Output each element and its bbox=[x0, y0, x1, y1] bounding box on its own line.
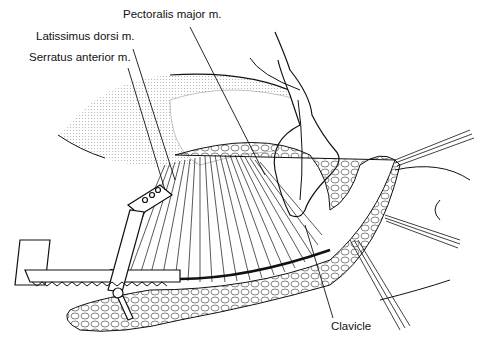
fat-border bbox=[67, 143, 400, 332]
illustration: Pectoralis major m. Latissimus dorsi m. … bbox=[0, 0, 493, 345]
label-serratus-anterior: Serratus anterior m. bbox=[29, 51, 131, 63]
label-pectoralis-major: Pectoralis major m. bbox=[123, 8, 221, 20]
label-clavicle: Clavicle bbox=[331, 320, 371, 332]
label-latissimus-dorsi: Latissimus dorsi m. bbox=[36, 30, 134, 42]
